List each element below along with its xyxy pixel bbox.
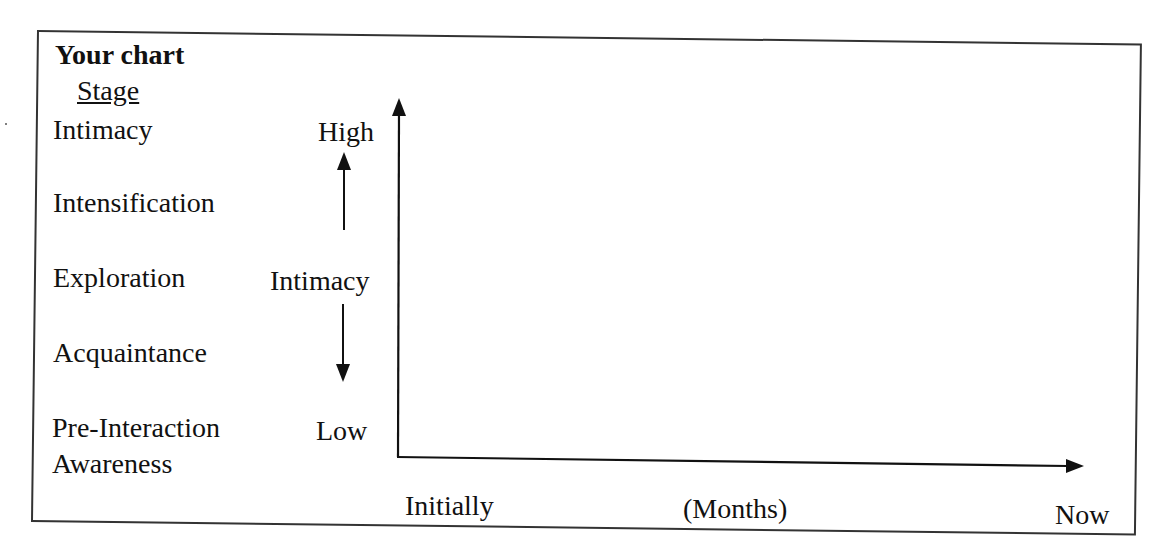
x-axis-arrow — [397, 457, 1084, 473]
intimacy-up-arrow-icon — [337, 152, 351, 230]
intimacy-down-arrow-icon — [336, 304, 350, 382]
y-axis-arrow — [392, 98, 406, 457]
axes-graphics — [0, 0, 1174, 557]
